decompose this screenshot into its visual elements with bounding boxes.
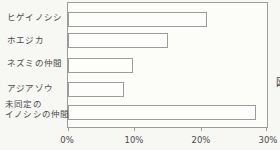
x-axis-tick-20	[201, 128, 202, 131]
category-label-midoutei-inoshishi: 未同定の イノシシの仲間	[5, 100, 69, 119]
x-tick-label-20: 20%	[179, 135, 223, 145]
category-label-text: アジアゾウ	[7, 84, 53, 94]
x-axis-tick-30	[266, 128, 267, 131]
x-tick-label-30: 30%	[246, 135, 280, 145]
bar-higeinoshishi	[68, 12, 207, 27]
bar-asiazou	[68, 82, 124, 97]
category-label-nezumi: ネズミの仲間	[7, 59, 62, 69]
x-axis-tick-10	[134, 128, 135, 131]
clipped-edge-text: 図	[276, 74, 280, 89]
plot-area	[67, 2, 268, 128]
x-tick-label-10: 10%	[112, 135, 156, 145]
category-label-text: ヒゲイノシシ	[7, 13, 62, 23]
category-label-hoejika: ホエジカ	[7, 36, 44, 46]
x-tick-label-0: 0%	[45, 135, 89, 145]
x-axis-tick-0	[68, 128, 69, 131]
category-label-higeinoshishi: ヒゲイノシシ	[7, 13, 62, 23]
bar-hoejika	[68, 33, 168, 48]
category-label-text: ホエジカ	[7, 36, 44, 46]
category-label-text: ネズミの仲間	[7, 59, 62, 69]
horizontal-bar-chart: ヒゲイノシシ ホエジカ ネズミの仲間 アジアゾウ 未同定の イノシシの仲間 0%…	[0, 0, 280, 150]
bar-nezumi	[68, 58, 133, 73]
category-label-text-line2: イノシシの仲間	[5, 110, 69, 120]
bar-midoutei-inoshishi	[68, 105, 256, 120]
category-label-asiazou: アジアゾウ	[7, 84, 53, 94]
